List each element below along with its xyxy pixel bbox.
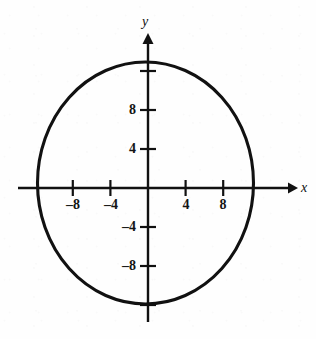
x-tick-label-8: 8 [220, 198, 227, 212]
y-tick-label-8: 8 [129, 103, 136, 117]
y-tick-label-minus4: –4 [122, 220, 136, 234]
x-axis-label: x [301, 181, 307, 195]
x-axis-arrow-icon [288, 183, 298, 194]
ellipse-graph-figure: x y –8 –4 4 8 8 4 –4 –8 [0, 0, 316, 339]
x-tick-label-4: 4 [183, 198, 190, 212]
y-tick-label-4: 4 [129, 142, 136, 156]
y-tick-label-minus8: –8 [122, 259, 136, 273]
x-tick-label-minus8: –8 [66, 198, 80, 212]
y-axis-arrow-icon [143, 33, 154, 44]
x-tick-label-minus4: –4 [104, 198, 118, 212]
coordinate-plane-svg [0, 0, 316, 339]
y-axis-label: y [142, 15, 148, 29]
ellipse-curve [38, 62, 254, 304]
